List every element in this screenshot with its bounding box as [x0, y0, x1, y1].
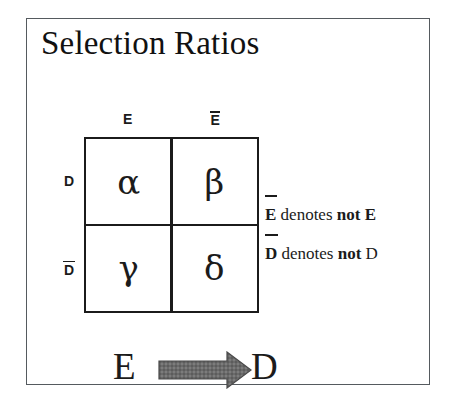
row-header-not-d-label: D [64, 261, 74, 278]
row-header-d-label: D [64, 173, 74, 189]
implication-antecedent: E [113, 341, 136, 393]
column-header-e: E [84, 111, 172, 127]
legend-item-not-e: E denotes not E [265, 195, 431, 234]
legend-symbol-e-bar: E [265, 195, 276, 234]
table-cell-beta: β [172, 139, 258, 225]
right-block-arrow-icon [157, 351, 253, 389]
table-cell-delta-symbol: δ [204, 248, 224, 288]
contingency-table: E E D D α β γ δ [84, 137, 259, 313]
page-title: Selection Ratios [41, 23, 260, 63]
row-header-not-d: D [60, 225, 78, 313]
legend-negation-e: not [337, 205, 361, 224]
table-cell-alpha-symbol: α [117, 162, 140, 202]
implication-consequent: D [251, 341, 278, 393]
table-cell-gamma-symbol: γ [119, 248, 139, 288]
column-header-not-e-label: E [211, 111, 220, 128]
legend-variable-d: D [361, 244, 378, 263]
matrix-grid: α β γ δ [84, 137, 259, 313]
legend-verb-d: denotes [277, 244, 337, 263]
table-cell-delta: δ [172, 225, 258, 311]
legend-verb-e: denotes [276, 205, 336, 224]
matrix-horizontal-divider [86, 224, 257, 226]
legend-symbol-d-bar: D [265, 234, 277, 273]
legend-negation-d: not [338, 244, 362, 263]
column-header-e-label: E [123, 111, 132, 127]
legend-variable-e: E [360, 205, 376, 224]
legend: E denotes not E D denotes not D [265, 195, 431, 273]
table-cell-gamma: γ [86, 225, 172, 311]
table-cell-alpha: α [86, 139, 172, 225]
column-header-not-e: E [172, 111, 260, 128]
table-cell-beta-symbol: β [204, 162, 224, 202]
figure-frame: Selection Ratios E E D D α β γ δ E denot… [26, 18, 430, 385]
row-header-d: D [60, 137, 78, 225]
implication-statement: E D [83, 341, 283, 399]
legend-item-not-d: D denotes not D [265, 234, 431, 273]
